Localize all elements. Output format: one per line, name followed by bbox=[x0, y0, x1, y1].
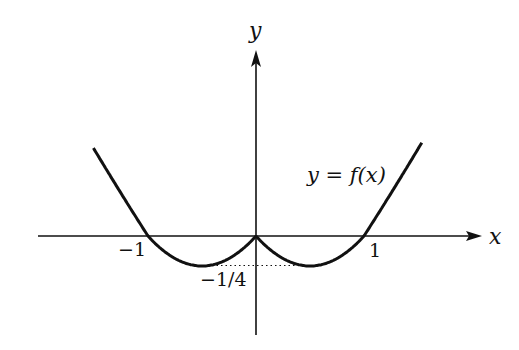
function-graph: y x −1 1 −1/4 y = f(x) bbox=[0, 0, 519, 350]
y-axis-label: y bbox=[249, 20, 261, 42]
function-label-f: f bbox=[350, 163, 358, 187]
function-label: y = f(x) bbox=[307, 165, 386, 186]
function-label-eq: = bbox=[319, 163, 350, 187]
tick-label-min: −1/4 bbox=[200, 270, 247, 289]
function-label-arg: (x) bbox=[358, 163, 386, 187]
x-axis-label: x bbox=[489, 226, 501, 248]
function-label-y: y bbox=[307, 163, 319, 187]
plot-canvas bbox=[0, 0, 519, 350]
tick-label-pos1: 1 bbox=[369, 241, 381, 260]
tick-label-neg1: −1 bbox=[118, 240, 146, 259]
